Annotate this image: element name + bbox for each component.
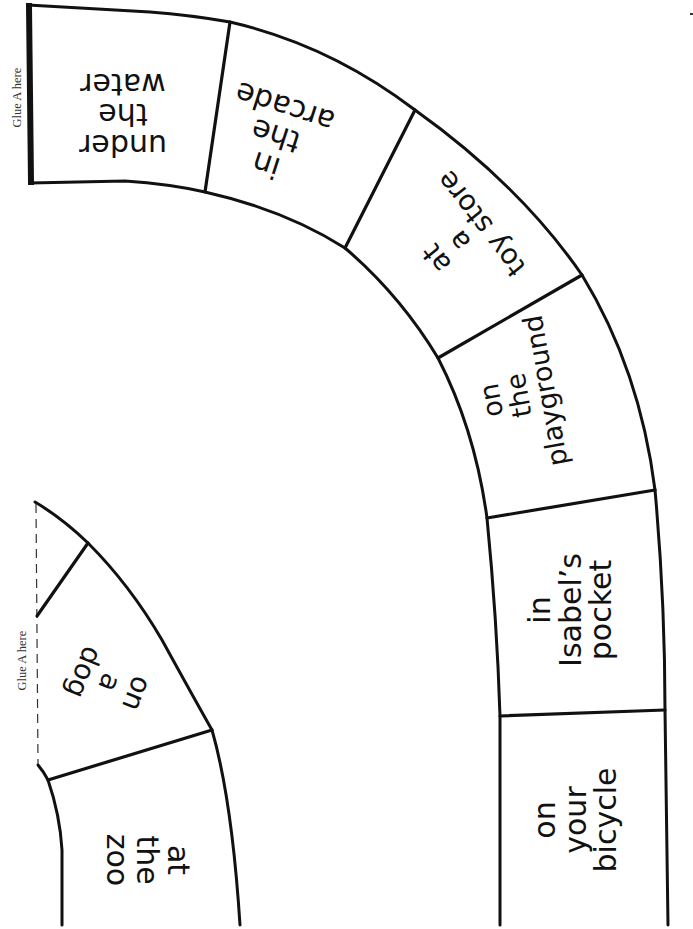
large-strip-divider-5 [500, 710, 665, 716]
glue-label-top-left: Glue A here [10, 58, 25, 128]
small-strip-glue-dashed-line [36, 504, 38, 764]
small-strip-inner-edge [38, 765, 62, 925]
card-on-your-bicycle[interactable]: on your bicycle [530, 745, 640, 895]
large-strip-divider-4 [487, 490, 655, 518]
card-in-isabels-pocket[interactable]: in Isabel’s pocket [525, 540, 635, 680]
card-under-the-water[interactable]: under the water [58, 40, 188, 160]
card-at-the-zoo[interactable]: at the zoo [93, 805, 193, 915]
large-strip-glue-edge [29, 6, 31, 182]
glue-label-small-strip: Glue A here [15, 621, 30, 691]
small-strip-divider-1 [37, 543, 88, 616]
